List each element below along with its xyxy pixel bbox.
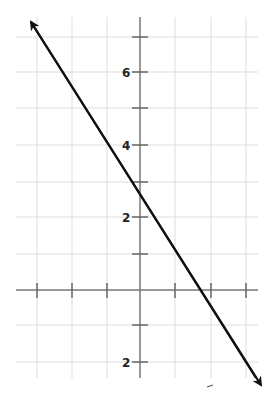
y-tick-labels: 6 4 2 2: [122, 66, 130, 370]
coordinate-plane: 6 4 2 2: [0, 0, 272, 399]
y-label-2: 2: [122, 211, 130, 225]
stray-mark: [207, 385, 213, 387]
y-label-4: 4: [122, 139, 130, 153]
y-label-neg2: 2: [122, 356, 130, 370]
graphed-line-lower-arrow: [31, 22, 261, 385]
y-label-6: 6: [122, 66, 130, 80]
